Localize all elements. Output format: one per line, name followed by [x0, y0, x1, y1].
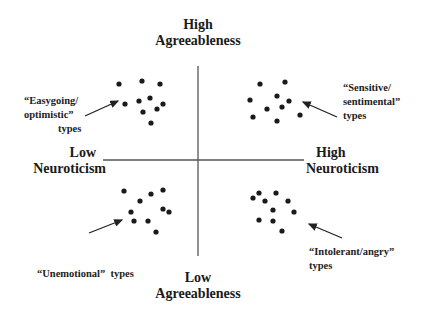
dots-upper-left: [116, 78, 165, 125]
arrow-lower-left: [89, 220, 122, 233]
axis-label-top-line1: High: [148, 17, 248, 33]
axis-label-bottom-line2: Agreeableness: [148, 286, 248, 302]
dots-upper-right: [247, 79, 302, 123]
axis-label-right-line1: High: [306, 145, 406, 161]
ql-ll-1: “Unemotional” types: [37, 267, 147, 281]
ql-ul-3: types: [24, 122, 84, 136]
axis-label-bottom-line1: Low: [148, 270, 248, 286]
quadrant-label-lower-right: “Intolerant/angry” types: [309, 245, 419, 273]
quadrant-label-lower-left: “Unemotional” types: [37, 239, 147, 295]
axis-label-left-line1: Low: [20, 145, 106, 161]
ql-lr-1: “Intolerant/angry”: [309, 245, 419, 259]
axis-label-left-line2: Neuroticism: [20, 161, 106, 177]
axis-label-right-line2: Neuroticism: [306, 161, 406, 177]
axis-label-top: High Agreeableness: [148, 17, 248, 49]
ql-ur-3: types: [343, 109, 423, 123]
ql-lr-2: types: [309, 259, 419, 273]
dots-lower-left: [121, 187, 171, 234]
ql-ul-1: “Easygoing/: [24, 94, 84, 108]
axis-label-top-line2: Agreeableness: [148, 33, 248, 49]
ql-ur-1: “Sensitive/: [343, 81, 423, 95]
axis-label-left: Low Neuroticism: [20, 145, 106, 177]
axis-label-right: High Neuroticism: [306, 145, 406, 177]
ql-ur-2: sentimental”: [343, 95, 423, 109]
ql-ul-2: optimistic”: [24, 108, 84, 122]
axis-label-bottom: Low Agreeableness: [148, 270, 248, 302]
arrow-lower-right: [309, 224, 342, 238]
arrow-upper-left: [85, 101, 118, 116]
dots-lower-right: [250, 190, 296, 233]
arrow-upper-right: [303, 102, 337, 117]
quadrant-label-upper-right: “Sensitive/ sentimental” types: [343, 81, 423, 123]
quadrant-label-upper-left: “Easygoing/ optimistic” types: [24, 94, 84, 136]
